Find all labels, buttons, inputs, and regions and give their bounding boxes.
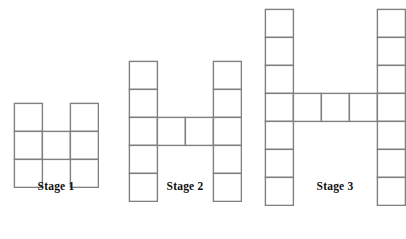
unit-square <box>321 93 349 121</box>
unit-square <box>157 117 185 145</box>
unit-square <box>377 65 405 93</box>
unit-square <box>293 93 321 121</box>
unit-square <box>377 9 405 37</box>
unit-square <box>265 93 293 121</box>
stage-label-3: Stage 3 <box>265 180 405 192</box>
unit-square <box>377 37 405 65</box>
unit-square <box>349 93 377 121</box>
unit-square <box>265 65 293 93</box>
unit-square <box>265 37 293 65</box>
unit-square <box>265 149 293 177</box>
unit-square <box>377 93 405 121</box>
stage-group-1: Stage 1 <box>14 103 98 221</box>
unit-square <box>265 121 293 149</box>
h-shape-svg-3 <box>264 8 406 207</box>
unit-square <box>70 103 98 131</box>
unit-square <box>213 117 241 145</box>
stage-label-2: Stage 2 <box>129 180 241 192</box>
unit-square <box>185 117 213 145</box>
stage-group-3: Stage 3 <box>265 9 405 239</box>
unit-square <box>129 61 157 89</box>
unit-square <box>265 9 293 37</box>
unit-square <box>129 89 157 117</box>
unit-square <box>213 89 241 117</box>
stage-label-1: Stage 1 <box>14 180 98 192</box>
unit-square <box>377 149 405 177</box>
unit-square <box>42 131 70 159</box>
unit-square <box>377 121 405 149</box>
unit-square <box>129 145 157 173</box>
stage-group-2: Stage 2 <box>129 61 241 235</box>
unit-square <box>14 131 42 159</box>
h-shape-svg-1 <box>13 102 100 189</box>
unit-square <box>14 103 42 131</box>
unit-square <box>213 145 241 173</box>
unit-square <box>70 131 98 159</box>
unit-square <box>213 61 241 89</box>
unit-square <box>129 117 157 145</box>
